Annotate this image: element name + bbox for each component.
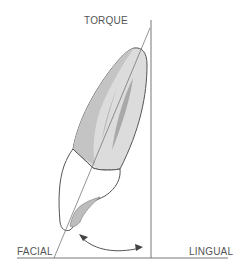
torque-label: TORQUE	[84, 15, 128, 26]
arrowhead-left-icon	[79, 234, 88, 241]
lingual-label: LINGUAL	[189, 246, 233, 257]
arrowhead-right-icon	[135, 244, 143, 251]
long-axis-line	[54, 28, 150, 258]
torque-angle-arrow	[82, 238, 140, 251]
torque-diagram	[0, 0, 241, 276]
facial-label: FACIAL	[17, 246, 53, 257]
